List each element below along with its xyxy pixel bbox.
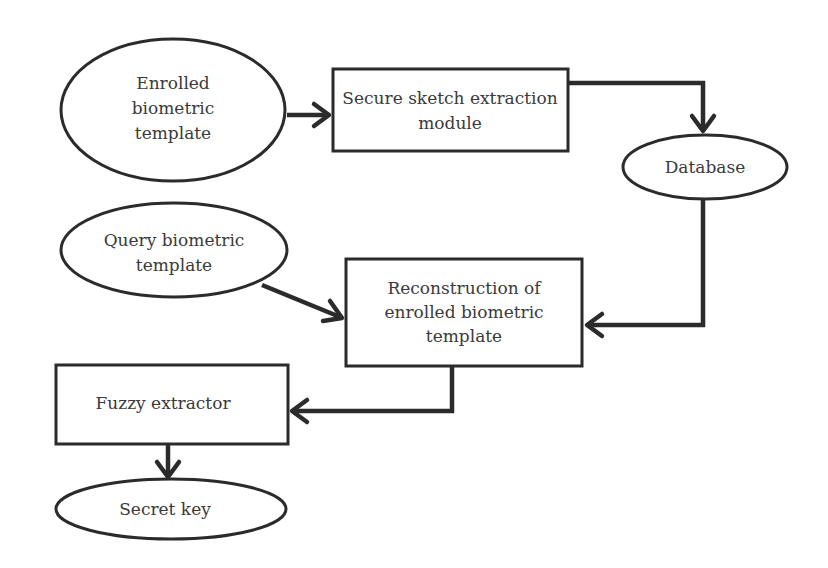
node-label-line: template <box>426 326 502 346</box>
node-label-line: biometric <box>132 98 215 118</box>
node-secret-key: Secret key <box>56 479 286 539</box>
edge-database-to-reconstruction <box>587 200 703 336</box>
node-label-line: Fuzzy extractor <box>95 393 231 413</box>
node-label-line: Secret key <box>119 499 211 519</box>
node-secure-sketch-extraction-module: Secure sketch extraction module <box>333 69 568 151</box>
node-label-line: Database <box>665 157 746 177</box>
node-label-line: Query biometric <box>104 230 245 250</box>
edge-enrolled-to-secure <box>287 104 329 126</box>
edge-secure-to-database <box>568 83 714 131</box>
node-query-biometric-template: Query biometric template <box>61 203 287 297</box>
node-label-line: Secure sketch extraction <box>342 88 557 108</box>
edge-reconstruction-to-fuzzy <box>292 366 452 422</box>
flowchart-canvas: Enrolled biometric template Secure sketc… <box>0 0 828 568</box>
edge-fuzzy-to-secret <box>157 444 179 477</box>
node-database: Database <box>623 135 787 199</box>
node-label-line: Enrolled <box>136 73 210 93</box>
node-label-line: Reconstruction of <box>387 278 542 298</box>
node-enrolled-biometric-template: Enrolled biometric template <box>61 39 285 181</box>
node-label-line: template <box>135 123 211 143</box>
edge-query-to-reconstruction <box>262 285 342 321</box>
node-reconstruction-of-enrolled-template: Reconstruction of enrolled biometric tem… <box>346 259 582 366</box>
node-label-line: module <box>418 113 482 133</box>
node-label-line: template <box>136 255 212 275</box>
node-label-line: enrolled biometric <box>384 302 543 322</box>
node-fuzzy-extractor: Fuzzy extractor <box>56 365 288 444</box>
